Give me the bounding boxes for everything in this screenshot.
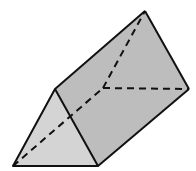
triangular-prism-diagram — [0, 0, 196, 171]
